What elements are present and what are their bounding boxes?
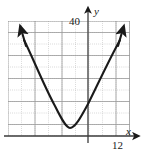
parabola-graph-figure: y x 40 12 bbox=[0, 0, 141, 155]
x-axis-label: x bbox=[126, 126, 131, 137]
grid-major bbox=[8, 21, 130, 136]
y-axis-label: y bbox=[94, 6, 99, 17]
y-axis-tick-label-40: 40 bbox=[69, 16, 80, 27]
x-axis-tick-label-12: 12 bbox=[112, 140, 123, 151]
parabola-curve bbox=[24, 40, 120, 128]
